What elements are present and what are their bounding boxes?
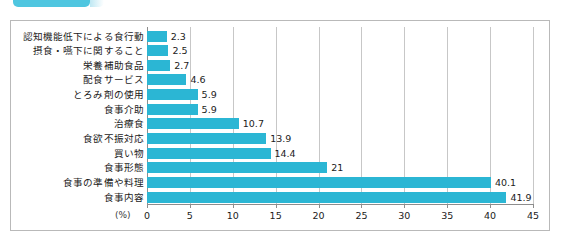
bar-value-label: 40.1 [495, 175, 516, 190]
bar-value-label: 10.7 [243, 116, 264, 131]
category-label: 配食サービス [83, 72, 144, 87]
bar [147, 162, 327, 173]
tab-banner [13, 0, 90, 7]
category-label: 治療食 [114, 116, 144, 131]
bar [147, 31, 167, 42]
bar [147, 133, 266, 144]
bar [147, 148, 271, 159]
bar-value-label: 41.9 [510, 190, 531, 205]
tick-label-30: 30 [391, 210, 417, 221]
bar-row: 認知機能低下による食行動2.3 [11, 29, 551, 44]
tick-mark-30 [404, 204, 405, 208]
category-label: 食事の準備や料理 [63, 175, 144, 190]
category-label: 食事内容 [104, 190, 144, 205]
bar-chart-plot: 認知機能低下による食行動2.3摂食・嚥下に関すること2.5栄養補助食品2.7配食… [11, 21, 551, 232]
bar-value-label: 13.9 [270, 131, 291, 146]
bar-row: 摂食・嚥下に関すること2.5 [11, 43, 551, 58]
bar [147, 177, 491, 188]
chart-frame: 認知機能低下による食行動2.3摂食・嚥下に関すること2.5栄養補助食品2.7配食… [10, 20, 550, 231]
bar-value-label: 2.5 [172, 43, 187, 58]
x-axis-unit-label: (%) [115, 210, 131, 220]
tick-label-40: 40 [477, 210, 503, 221]
category-label: 摂食・嚥下に関すること [33, 43, 144, 58]
bar-row: 買い物14.4 [11, 146, 551, 161]
category-label: 買い物 [114, 146, 144, 161]
bar-value-label: 2.3 [171, 29, 186, 44]
bar-value-label: 14.4 [275, 146, 296, 161]
category-label: とろみ剤の使用 [73, 87, 144, 102]
bar-value-label: 21 [331, 160, 343, 175]
tick-mark-35 [447, 204, 448, 208]
tick-mark-10 [233, 204, 234, 208]
category-label: 栄養補助食品 [83, 58, 144, 73]
category-label: 認知機能低下による食行動 [23, 29, 144, 44]
tick-label-0: 0 [134, 210, 160, 221]
bar-row: 配食サービス4.6 [11, 72, 551, 87]
x-axis-line [147, 204, 533, 205]
tick-mark-20 [319, 204, 320, 208]
tick-label-15: 15 [263, 210, 289, 221]
tick-mark-25 [361, 204, 362, 208]
tick-mark-0 [147, 204, 148, 208]
bar-row: 食事介助5.9 [11, 102, 551, 117]
category-label: 食欲不振対応 [83, 131, 144, 146]
bar [147, 118, 239, 129]
category-label: 食事介助 [104, 102, 144, 117]
tick-mark-40 [490, 204, 491, 208]
tick-label-45: 45 [520, 210, 546, 221]
tick-label-10: 10 [220, 210, 246, 221]
bar-row: 食欲不振対応13.9 [11, 131, 551, 146]
bar-row: 食事の準備や料理40.1 [11, 175, 551, 190]
bar [147, 89, 198, 100]
bar [147, 104, 198, 115]
tick-label-20: 20 [306, 210, 332, 221]
bar-row: 食事内容41.9 [11, 190, 551, 205]
bar-value-label: 4.6 [190, 72, 205, 87]
bar [147, 45, 168, 56]
bar-value-label: 5.9 [202, 102, 217, 117]
bar [147, 60, 170, 71]
bar [147, 74, 186, 85]
bar-row: 食事形態21 [11, 160, 551, 175]
tick-label-25: 25 [348, 210, 374, 221]
tick-mark-5 [190, 204, 191, 208]
tick-label-5: 5 [177, 210, 203, 221]
bar-value-label: 5.9 [202, 87, 217, 102]
tick-label-35: 35 [434, 210, 460, 221]
tab-banner-fade [90, 0, 104, 7]
tick-mark-45 [533, 204, 534, 208]
bar-value-label: 2.7 [174, 58, 189, 73]
bar-row: とろみ剤の使用5.9 [11, 87, 551, 102]
category-label: 食事形態 [104, 160, 144, 175]
bar [147, 192, 506, 203]
bar-row: 治療食10.7 [11, 116, 551, 131]
bar-row: 栄養補助食品2.7 [11, 58, 551, 73]
tick-mark-15 [276, 204, 277, 208]
